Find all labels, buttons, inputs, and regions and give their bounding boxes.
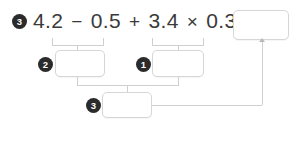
final-answer-box[interactable] — [233, 10, 289, 40]
operator-plus: + — [127, 11, 143, 32]
operand-2: 0.5 — [91, 9, 121, 32]
step-3-input-box[interactable] — [102, 92, 152, 118]
connector-up-to-answer — [262, 42, 263, 105]
step-2-input-box[interactable] — [55, 50, 105, 77]
step-1-badge: 1 — [136, 57, 151, 72]
step-3-badge: 3 — [86, 98, 101, 113]
operator-times: × — [185, 11, 201, 32]
arrow-head-icon — [259, 38, 265, 42]
connector-step2-down — [77, 77, 78, 85]
operand-1: 4.2 — [33, 9, 63, 32]
operand-3: 3.4 — [148, 9, 178, 32]
bracket-span-step2 — [52, 45, 104, 46]
connector-step2-step1-join — [77, 85, 179, 86]
step-1-input-box[interactable] — [152, 50, 204, 77]
operand-4: 0.3 — [206, 9, 236, 32]
problem-number-badge: 3 — [12, 14, 27, 29]
equation-expression: 4.2 − 0.5 + 3.4 × 0.3 = — [33, 8, 258, 35]
worksheet-problem: 3 4.2 − 0.5 + 3.4 × 0.3 = 2 1 3 — [0, 0, 304, 146]
connector-step3-right — [152, 105, 262, 106]
bracket-right-tick-step1 — [203, 38, 204, 46]
connector-join-to-step3 — [127, 85, 128, 92]
bracket-right-tick-step2 — [103, 38, 104, 46]
step-2-badge: 2 — [38, 57, 53, 72]
connector-step1-down — [178, 77, 179, 85]
operator-minus: − — [69, 11, 85, 32]
